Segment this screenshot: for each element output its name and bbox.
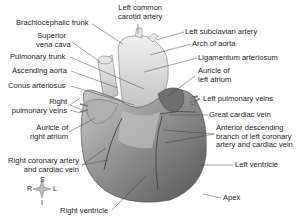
label-line: left atrium [198,76,231,85]
label-great-cardiac-vein: Great cardiac vein [209,111,271,120]
label-ascending-aorta: Ascending aorta [12,67,67,76]
label-brachiocephalic-trunk: Brachiocephalic trunk [16,19,89,28]
compass-right: R [27,185,32,194]
label-line: vena cava [36,41,66,50]
label-arch-of-aorta: Arch of aorta [192,40,235,49]
label-pulmonary-trunk: Pulmonary trunk [10,53,65,62]
label-auricle-of-left-atrium: Auricle of left atrium [198,67,231,84]
label-line: carotid artery [118,13,162,22]
heart-diagram: Left common carotid artery Brachiocephal… [0,0,300,224]
label-apex: Apex [223,194,240,203]
label-right-coronary-artery: Right coronary artery and cardiac vein [2,157,79,174]
compass-inferior: I [41,199,43,208]
label-line: right atrium [20,133,68,142]
label-left-common-carotid-artery: Left common carotid artery [118,4,162,21]
label-line: and cardiac vein [2,166,79,175]
label-superior-vena-cava: Superior vena cava [36,32,66,49]
label-conus-arteriosus: Conus arteriosus [8,82,65,91]
compass-left: L [53,185,57,194]
label-right-pulmonary-veins: Right pulmonary veins [4,98,67,115]
label-anterior-descending-branch: Anterior descending branch of left coron… [216,124,293,150]
label-left-pulmonary-veins: Left pulmonary veins [203,95,273,104]
label-left-ventricle: Left ventricle [235,161,278,170]
compass-superior: S [40,176,45,185]
label-line: artery and cardiac vein [216,141,293,150]
label-line: pulmonary veins [4,107,67,116]
label-auricle-of-right-atrium: Auricle of right atrium [20,124,68,141]
label-ligamentum-arteriosum: Ligamentum arteriosum [198,54,278,63]
label-left-subclavian-artery: Left subclavian artery [185,28,257,37]
label-right-ventricle: Right ventricle [60,207,108,216]
